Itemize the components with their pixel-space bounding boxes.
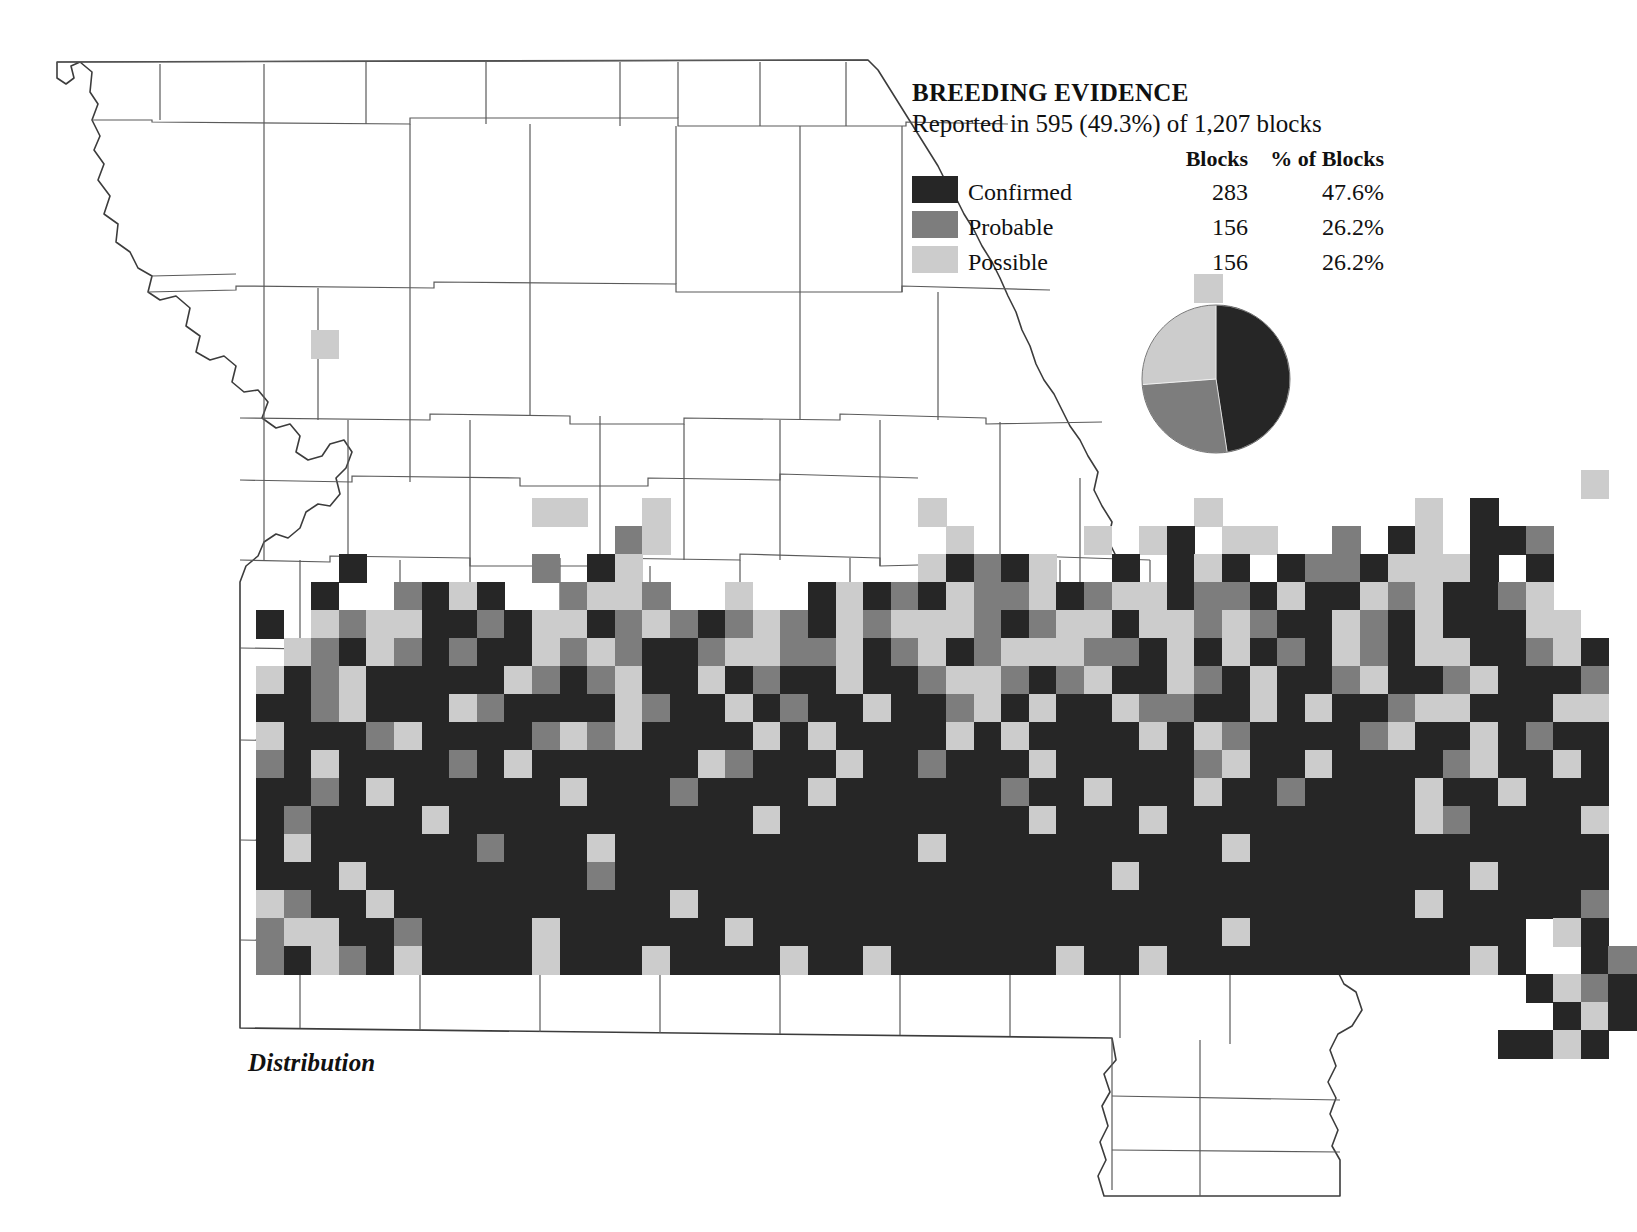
atlas-block-probable (394, 918, 422, 947)
atlas-block-confirmed (422, 834, 450, 863)
atlas-block-confirmed (422, 946, 450, 975)
atlas-block-confirmed (1526, 806, 1554, 835)
possible-swatch-cell (912, 245, 968, 280)
atlas-block-probable (1194, 750, 1222, 779)
legend-row-label: Possible (968, 245, 1136, 280)
atlas-block-probable (1250, 610, 1278, 639)
atlas-block-confirmed (1470, 554, 1498, 583)
atlas-block-probable (918, 750, 946, 779)
atlas-block-confirmed (1553, 890, 1581, 919)
atlas-block-confirmed (1250, 778, 1278, 807)
atlas-block-confirmed (1443, 610, 1471, 639)
atlas-block-confirmed (1084, 722, 1112, 751)
atlas-block-confirmed (1332, 778, 1360, 807)
atlas-block-confirmed (891, 666, 919, 695)
atlas-block-confirmed (1222, 946, 1250, 975)
atlas-block-confirmed (974, 946, 1002, 975)
atlas-block-possible (974, 694, 1002, 723)
atlas-block-confirmed (477, 638, 505, 667)
atlas-block-confirmed (1526, 694, 1554, 723)
atlas-block-probable (1443, 666, 1471, 695)
atlas-block-possible (1581, 694, 1609, 723)
atlas-block-confirmed (808, 582, 836, 611)
atlas-block-probable (698, 638, 726, 667)
atlas-block-confirmed (698, 834, 726, 863)
atlas-block-confirmed (504, 946, 532, 975)
atlas-block-confirmed (394, 694, 422, 723)
atlas-block-possible (615, 554, 643, 583)
atlas-block-confirmed (670, 638, 698, 667)
atlas-block-confirmed (1167, 918, 1195, 947)
atlas-block-confirmed (1415, 722, 1443, 751)
atlas-block-possible (504, 750, 532, 779)
atlas-block-confirmed (1360, 694, 1388, 723)
atlas-block-confirmed (753, 918, 781, 947)
atlas-block-possible (256, 666, 284, 695)
atlas-block-confirmed (1360, 750, 1388, 779)
atlas-block-confirmed (1056, 806, 1084, 835)
atlas-block-confirmed (1305, 918, 1333, 947)
atlas-block-possible (836, 582, 864, 611)
atlas-block-confirmed (1029, 778, 1057, 807)
atlas-block-probable (725, 610, 753, 639)
atlas-block-probable (587, 722, 615, 751)
atlas-block-confirmed (532, 806, 560, 835)
atlas-block-confirmed (891, 750, 919, 779)
atlas-block-confirmed (311, 834, 339, 863)
atlas-block-probable (1001, 582, 1029, 611)
atlas-block-confirmed (1443, 834, 1471, 863)
atlas-block-confirmed (642, 918, 670, 947)
atlas-block-confirmed (918, 918, 946, 947)
atlas-block-confirmed (477, 666, 505, 695)
atlas-block-confirmed (1581, 946, 1609, 975)
atlas-block-confirmed (560, 862, 588, 891)
atlas-block-probable (339, 610, 367, 639)
atlas-block-probable (1581, 666, 1609, 695)
atlas-block-confirmed (1001, 834, 1029, 863)
atlas-block-confirmed (1332, 862, 1360, 891)
atlas-block-confirmed (642, 834, 670, 863)
atlas-block-probable (1305, 554, 1333, 583)
atlas-block-confirmed (1001, 946, 1029, 975)
atlas-block-confirmed (974, 918, 1002, 947)
legend-header-percent: % of Blocks (1248, 146, 1384, 175)
atlas-block-confirmed (256, 862, 284, 891)
atlas-block-possible (1415, 610, 1443, 639)
atlas-block-confirmed (1498, 638, 1526, 667)
atlas-block-confirmed (753, 694, 781, 723)
atlas-block-probable (311, 778, 339, 807)
atlas-block-possible (1305, 694, 1333, 723)
atlas-block-confirmed (698, 862, 726, 891)
legend-row: Confirmed28347.6% (912, 175, 1384, 210)
atlas-block-possible (1526, 610, 1554, 639)
atlas-block-confirmed (1029, 918, 1057, 947)
atlas-block-confirmed (339, 778, 367, 807)
atlas-block-confirmed (725, 834, 753, 863)
atlas-block-possible (1553, 750, 1581, 779)
atlas-block-confirmed (1305, 610, 1333, 639)
atlas-block-possible (1415, 778, 1443, 807)
atlas-block-probable (946, 694, 974, 723)
atlas-block-possible (642, 610, 670, 639)
atlas-block-possible (725, 582, 753, 611)
atlas-block-confirmed (1470, 806, 1498, 835)
atlas-block-confirmed (1056, 918, 1084, 947)
atlas-block-possible (1553, 694, 1581, 723)
atlas-block-probable (1388, 582, 1416, 611)
atlas-block-confirmed (1553, 722, 1581, 751)
atlas-block-probable (1526, 526, 1554, 555)
atlas-block-confirmed (560, 694, 588, 723)
atlas-block-possible (863, 946, 891, 975)
atlas-block-confirmed (780, 722, 808, 751)
atlas-block-possible (311, 610, 339, 639)
atlas-block-confirmed (1112, 918, 1140, 947)
atlas-block-confirmed (422, 610, 450, 639)
atlas-block-confirmed (642, 666, 670, 695)
atlas-block-confirmed (753, 946, 781, 975)
atlas-block-possible (449, 694, 477, 723)
atlas-block-possible (1415, 638, 1443, 667)
atlas-block-confirmed (863, 890, 891, 919)
atlas-block-confirmed (1553, 862, 1581, 891)
atlas-block-confirmed (615, 946, 643, 975)
atlas-block-confirmed (974, 862, 1002, 891)
